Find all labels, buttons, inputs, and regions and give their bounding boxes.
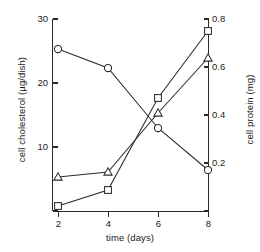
data-point-square bbox=[105, 187, 112, 194]
series-line-circle bbox=[58, 49, 208, 170]
series-cell-protein-triangle bbox=[54, 54, 212, 180]
series-cell-cholesterol bbox=[54, 45, 211, 173]
y-axis-right-title: cell protein (mg) bbox=[244, 45, 255, 175]
data-point-circle bbox=[104, 64, 111, 71]
bottom-tick-label-6: 6 bbox=[148, 218, 170, 229]
data-point-circle bbox=[204, 166, 211, 173]
right-tick-label-08: 0.8 bbox=[212, 13, 238, 24]
right-tick-label-06: 0.6 bbox=[212, 61, 238, 72]
data-point-circle bbox=[54, 45, 61, 52]
right-tick-label-04: 0.4 bbox=[212, 109, 238, 120]
bottom-tick-label-4: 4 bbox=[98, 218, 120, 229]
bottom-tick-label-8: 8 bbox=[198, 218, 220, 229]
x-axis-title: time (days) bbox=[0, 232, 260, 243]
data-point-square bbox=[205, 28, 212, 35]
data-point-circle bbox=[154, 124, 161, 131]
data-point-square bbox=[155, 95, 162, 102]
data-point-triangle bbox=[204, 54, 212, 61]
series-cell-protein-square bbox=[55, 28, 212, 210]
y-axis-left-title: cell cholesterol (µg/dish) bbox=[16, 45, 27, 175]
chart-figure: 30 20 10 0.8 0.6 0.4 0.2 2 4 6 8 cell ch… bbox=[0, 0, 260, 252]
right-axis-ticks bbox=[204, 19, 209, 163]
plot-area bbox=[0, 0, 260, 252]
series-line-triangle bbox=[58, 58, 208, 177]
bottom-axis-ticks bbox=[59, 212, 209, 217]
bottom-tick-label-2: 2 bbox=[48, 218, 70, 229]
left-axis-ticks bbox=[53, 19, 58, 147]
left-tick-label-30: 30 bbox=[22, 13, 48, 24]
data-point-square bbox=[55, 203, 62, 210]
right-tick-label-02: 0.2 bbox=[212, 157, 238, 168]
